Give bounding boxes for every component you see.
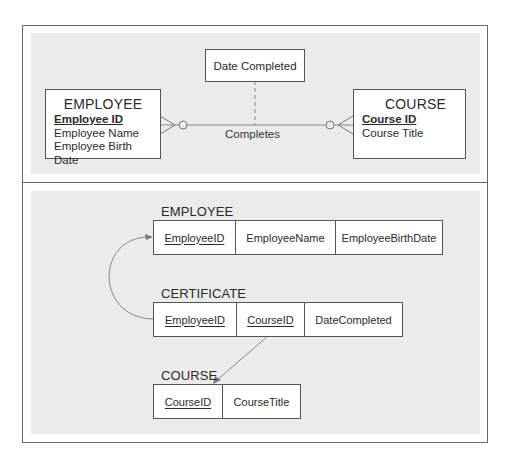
relationship-attribute-label: Date Completed [213,60,296,72]
column-course-id: CourseID [237,303,305,336]
table-course: CourseID CourseTitle [153,384,301,419]
entity-attribute: Employee Name [54,127,152,141]
entity-primary-key: Course ID [362,113,459,127]
entity-title: EMPLOYEE [54,96,152,112]
relationship-attribute-box: Date Completed [205,49,305,82]
table-name-employee: EMPLOYEE [161,204,233,219]
column-course-id: CourseID [154,385,223,418]
column-date-completed: DateCompleted [305,303,402,336]
relationship-label: Completes [225,128,280,140]
entity-primary-key: Employee ID [54,113,152,127]
column-employee-birth-date: EmployeeBirthDate [336,221,442,254]
table-certificate: EmployeeID CourseID DateCompleted [153,302,403,337]
table-name-certificate: CERTIFICATE [161,286,246,301]
column-employee-id: EmployeeID [154,221,236,254]
column-employee-name: EmployeeName [236,221,336,254]
column-course-title: CourseTitle [223,385,300,418]
table-name-course: COURSE [161,368,217,383]
table-employee: EmployeeID EmployeeName EmployeeBirthDat… [153,220,443,255]
entity-course: COURSE Course ID Course Title [353,89,466,159]
entity-attribute: Course Title [362,127,459,141]
entity-title: COURSE [362,96,459,112]
column-employee-id: EmployeeID [154,303,237,336]
entity-employee: EMPLOYEE Employee ID Employee Name Emplo… [45,89,161,159]
entity-attribute: Employee Birth Date [54,140,152,167]
